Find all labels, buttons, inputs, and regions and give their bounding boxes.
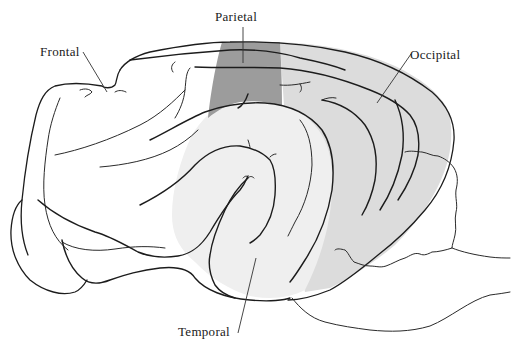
frontal-label: Frontal bbox=[40, 44, 80, 59]
parietal-label: Parietal bbox=[215, 9, 257, 24]
frontal-sulcus-2 bbox=[55, 90, 185, 155]
frontal-outline bbox=[21, 70, 120, 255]
frontal-leader-line bbox=[83, 52, 107, 92]
brain-lobes-diagram: Frontal Parietal Occipital Temporal bbox=[0, 0, 514, 348]
temporal-region bbox=[172, 104, 332, 298]
frontal-notch-sulcus bbox=[115, 91, 126, 93]
frontal-sulcus-1 bbox=[44, 98, 68, 250]
brainstem-lower bbox=[292, 292, 510, 331]
olfactory-bulb-outline bbox=[11, 200, 87, 294]
occipital-label: Occipital bbox=[410, 47, 460, 62]
temporal-label: Temporal bbox=[178, 324, 230, 339]
frontal-small-sulcus bbox=[80, 89, 92, 97]
rhinal-sulcus bbox=[62, 242, 165, 250]
brainstem-upper bbox=[452, 248, 510, 258]
short-sulcus-left bbox=[172, 62, 175, 72]
